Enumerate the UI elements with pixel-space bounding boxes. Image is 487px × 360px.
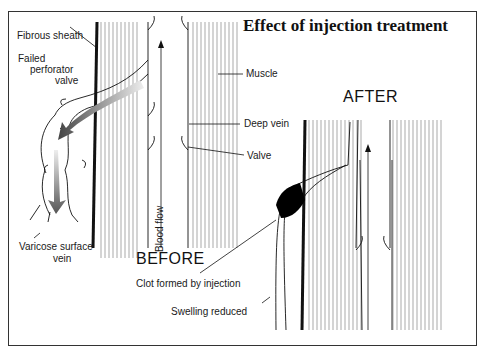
label-muscle: Muscle <box>246 68 278 79</box>
diagram-stage: Effect of injection treatment Fibrous sh… <box>0 0 487 360</box>
label-valve: Valve <box>247 150 271 161</box>
label-swelling: Swelling reduced <box>171 306 247 317</box>
heading-before: BEFORE <box>136 250 205 268</box>
label-blood-flow: Blood flow <box>154 206 165 252</box>
reflux-arrow-down-icon <box>48 150 66 214</box>
label-deep-vein: Deep vein <box>244 118 289 129</box>
label-failed-perforator-2: perforator <box>30 64 73 75</box>
label-failed-perforator-1: Failed <box>18 53 45 64</box>
before-muscle-left <box>93 22 140 258</box>
clot-shape <box>276 183 305 218</box>
label-clot: Clot formed by injection <box>136 278 241 289</box>
diagram-title: Effect of injection treatment <box>243 16 448 36</box>
label-varicose-2: vein <box>53 253 71 264</box>
label-varicose-1: Varicose surface <box>19 241 93 252</box>
heading-after: AFTER <box>343 88 398 106</box>
before-muscle-right <box>190 22 240 248</box>
label-fibrous-sheath: Fibrous sheath <box>17 30 83 41</box>
label-failed-perforator-3: valve <box>55 75 78 86</box>
